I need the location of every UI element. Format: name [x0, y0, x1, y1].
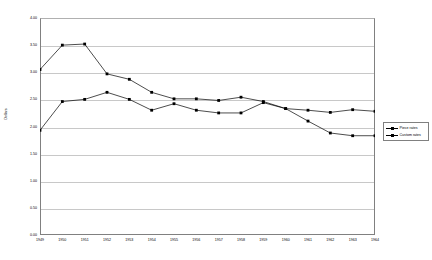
data-point-marker — [40, 68, 41, 71]
data-point-marker — [106, 72, 109, 75]
data-point-marker — [374, 110, 375, 113]
data-point-marker — [307, 120, 310, 123]
chart-legend: Piece rates Custom rates — [383, 122, 429, 141]
data-point-marker — [106, 91, 109, 94]
data-point-marker — [329, 132, 332, 135]
y-axis-tick-label: 3.50 — [3, 43, 37, 47]
data-point-marker — [195, 97, 198, 100]
series-layer — [40, 18, 375, 235]
y-axis-tick-labels: 0.000.501.001.502.002.503.003.504.00 — [0, 18, 37, 235]
y-axis-tick-label: 0.00 — [3, 233, 37, 237]
y-axis-tick-label: 1.00 — [3, 179, 37, 183]
data-point-marker — [128, 78, 131, 81]
series-line — [40, 92, 375, 130]
data-point-marker — [173, 97, 176, 100]
data-point-marker — [329, 111, 332, 114]
x-axis-tick-labels: 1949195019511952195319541955195619571958… — [40, 238, 375, 248]
data-point-marker — [262, 101, 265, 104]
y-axis-tick-label: 2.50 — [3, 97, 37, 101]
data-point-marker — [150, 91, 153, 94]
legend-label: Piece rates — [398, 126, 417, 131]
data-point-marker — [61, 100, 64, 103]
legend-label: Custom rates — [398, 133, 421, 138]
data-point-marker — [40, 129, 41, 132]
data-point-marker — [240, 96, 243, 99]
data-point-marker — [307, 109, 310, 112]
legend-marker-icon — [386, 125, 398, 132]
data-point-marker — [83, 43, 86, 46]
data-point-marker — [150, 109, 153, 112]
data-point-marker — [83, 98, 86, 101]
y-axis-tick-label: 0.50 — [3, 206, 37, 210]
y-axis-tick-label: 2.00 — [3, 125, 37, 129]
y-axis-tick-label: 4.00 — [3, 16, 37, 20]
data-point-marker — [374, 134, 375, 137]
chart-container: Dollars 0.000.501.001.502.002.503.003.50… — [0, 0, 432, 260]
legend-marker-icon — [386, 132, 398, 139]
data-point-marker — [240, 112, 243, 115]
data-point-marker — [173, 102, 176, 105]
series-line — [40, 44, 375, 136]
y-axis-tick-label: 3.00 — [3, 70, 37, 74]
data-point-marker — [217, 99, 220, 102]
data-point-marker — [195, 109, 198, 112]
data-point-marker — [128, 98, 131, 101]
legend-item-custom-rates[interactable]: Custom rates — [386, 132, 426, 139]
data-point-marker — [351, 108, 354, 111]
data-point-marker — [217, 112, 220, 115]
legend-item-piece-rates[interactable]: Piece rates — [386, 125, 426, 132]
data-point-marker — [61, 44, 64, 47]
x-axis-tick-label: 1964 — [360, 238, 390, 242]
y-axis-tick-label: 1.50 — [3, 152, 37, 156]
data-point-marker — [351, 134, 354, 137]
data-point-marker — [284, 107, 287, 110]
